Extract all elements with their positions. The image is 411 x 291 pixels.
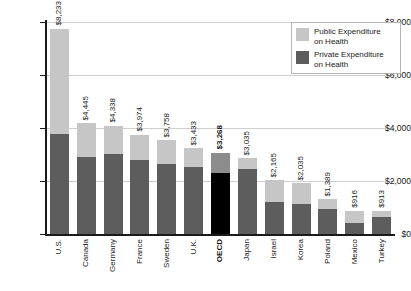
legend-label-public-line1: Public Expenditure: [314, 27, 381, 37]
category-slot: Poland: [314, 238, 341, 290]
segment-public: [292, 183, 311, 204]
category-slot: Israel: [261, 238, 288, 290]
data-label: $2,035: [297, 156, 305, 180]
segment-private: [104, 154, 123, 234]
bar-mexico[interactable]: $916: [345, 211, 364, 234]
category-label-poland: Poland: [324, 239, 332, 264]
bar-sweden[interactable]: $3,758: [157, 140, 176, 234]
data-label: $916: [351, 190, 359, 208]
legend-label-public-line2: on Health: [314, 37, 381, 47]
bar-slot-japan: $3,035: [234, 22, 261, 234]
data-label: $4,445: [82, 96, 90, 120]
category-slot: OECD: [207, 238, 234, 290]
bar-japan[interactable]: $3,035: [238, 158, 257, 234]
bar-slot-sweden: $3,758: [153, 22, 180, 234]
y-axis-label-2000: $2,000: [371, 177, 411, 186]
legend-label-private: Private Expenditure on Health: [314, 50, 384, 69]
bar-canada[interactable]: $4,445: [77, 123, 96, 234]
y-tick-0: [40, 234, 46, 235]
legend-item-public: Public Expenditure on Health: [296, 27, 397, 46]
category-slot: Mexico: [341, 238, 368, 290]
segment-private: [211, 173, 230, 234]
health-expenditure-bar-chart: $8,233$4,445$4,338$3,974$3,758$3,433$3,2…: [0, 0, 411, 291]
segment-private: [50, 134, 69, 234]
segment-private: [130, 160, 149, 234]
category-slot: Sweden: [153, 238, 180, 290]
data-label: $3,758: [163, 113, 171, 137]
y-tick-6000: [40, 75, 46, 76]
category-label-u-s: U.S.: [55, 239, 63, 255]
x-axis-line: [45, 234, 395, 236]
bar-slot-u-s: $8,233: [46, 22, 73, 234]
category-label-turkey: Turkey: [378, 239, 386, 263]
segment-public: [77, 123, 96, 157]
chart-legend: Public Expenditure on Health Private Exp…: [291, 22, 401, 74]
bar-poland[interactable]: $1,389: [318, 199, 337, 234]
category-slot: U.S.: [46, 238, 73, 290]
segment-private: [318, 209, 337, 234]
category-label-israel: Israel: [270, 239, 278, 259]
segment-private: [345, 223, 364, 234]
segment-public: [211, 153, 230, 174]
bar-slot-israel: $2,165: [261, 22, 288, 234]
bar-slot-france: $3,974: [127, 22, 154, 234]
category-label-germany: Germany: [109, 239, 117, 272]
y-tick-4000: [40, 128, 46, 129]
segment-public: [318, 199, 337, 209]
bar-u-k[interactable]: $3,433: [184, 148, 203, 234]
category-slot: Germany: [100, 238, 127, 290]
segment-private: [292, 204, 311, 234]
legend-label-public: Public Expenditure on Health: [314, 27, 381, 46]
bar-slot-canada: $4,445: [73, 22, 100, 234]
legend-item-private: Private Expenditure on Health: [296, 50, 397, 69]
category-slot: Canada: [73, 238, 100, 290]
data-label: $913: [378, 190, 386, 208]
segment-public: [265, 180, 284, 202]
category-slot: U.K.: [180, 238, 207, 290]
bar-germany[interactable]: $4,338: [104, 126, 123, 234]
category-label-canada: Canada: [82, 239, 90, 267]
bar-korea[interactable]: $2,035: [292, 183, 311, 234]
y-tick-2000: [40, 181, 46, 182]
category-label-oecd: OECD: [216, 239, 224, 262]
segment-public: [104, 126, 123, 154]
segment-private: [238, 169, 257, 234]
bar-france[interactable]: $3,974: [130, 135, 149, 234]
data-label: $4,338: [109, 98, 117, 122]
light-gray-swatch: [296, 28, 309, 41]
segment-public: [238, 158, 257, 169]
segment-private: [157, 164, 176, 234]
category-label-korea: Korea: [297, 239, 305, 260]
x-axis-category-labels: U.S.CanadaGermanyFranceSwedenU.K.OECDJap…: [46, 238, 395, 290]
segment-public: [157, 140, 176, 163]
segment-public: [345, 211, 364, 223]
category-slot: Korea: [288, 238, 315, 290]
bar-oecd[interactable]: $3,268: [211, 153, 230, 235]
bar-slot-oecd: $3,268: [207, 22, 234, 234]
data-label: $2,165: [270, 153, 278, 177]
category-label-japan: Japan: [243, 239, 251, 261]
bar-israel[interactable]: $2,165: [265, 180, 284, 234]
segment-private: [265, 202, 284, 234]
segment-public: [130, 135, 149, 161]
segment-private: [77, 157, 96, 234]
y-axis-label-4000: $4,000: [371, 124, 411, 133]
data-label: $3,433: [190, 121, 198, 145]
bar-slot-u-k: $3,433: [180, 22, 207, 234]
bar-slot-germany: $4,338: [100, 22, 127, 234]
category-slot: Turkey: [368, 238, 395, 290]
category-label-mexico: Mexico: [351, 239, 359, 264]
segment-public: [184, 148, 203, 166]
y-tick-8000: [40, 22, 46, 23]
legend-label-private-line1: Private Expenditure: [314, 50, 384, 60]
data-label: $3,035: [243, 131, 251, 155]
category-label-u-k: U.K.: [190, 239, 198, 255]
data-label: $3,974: [136, 107, 144, 131]
data-label: $1,389: [324, 172, 332, 196]
bar-u-s[interactable]: $8,233: [50, 29, 69, 234]
category-label-france: France: [136, 239, 144, 264]
category-slot: France: [127, 238, 154, 290]
legend-label-private-line2: on Health: [314, 60, 384, 70]
segment-private: [184, 167, 203, 234]
category-slot: Japan: [234, 238, 261, 290]
